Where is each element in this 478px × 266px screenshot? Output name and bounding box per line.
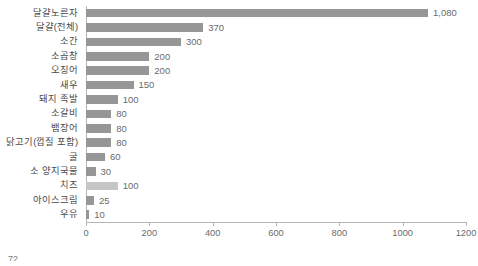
category-label: 아이스크림	[33, 194, 78, 207]
bar-10	[86, 153, 105, 162]
category-label: 굴	[69, 151, 78, 164]
bar-row: 100	[86, 180, 139, 193]
bar-13	[86, 196, 94, 205]
bar-1	[86, 23, 203, 32]
bars-layer: 1,08037030020020015010080808060301002510	[86, 6, 466, 222]
bar-value-label: 25	[99, 196, 110, 206]
x-tick	[213, 222, 214, 226]
category-label: 달걀(전체)	[36, 21, 78, 34]
bar-row: 80	[86, 136, 127, 149]
bar-row: 10	[86, 208, 105, 221]
x-tick	[339, 222, 340, 226]
bar-value-label: 60	[110, 152, 121, 162]
x-tick	[466, 222, 467, 226]
x-tick-label: 200	[142, 229, 158, 238]
bar-row: 80	[86, 108, 127, 121]
bar-row: 370	[86, 21, 224, 34]
bar-value-label: 1,080	[433, 8, 457, 18]
x-tick-label: 600	[268, 229, 284, 238]
x-tick-label: 1000	[392, 229, 413, 238]
bar-value-label: 370	[208, 23, 224, 33]
x-tick	[403, 222, 404, 226]
bar-row: 1,080	[86, 7, 457, 20]
bar-4	[86, 66, 149, 75]
bar-row: 300	[86, 36, 202, 49]
x-tick-label: 1200	[456, 229, 477, 238]
bar-value-label: 300	[186, 37, 202, 47]
bar-row: 150	[86, 79, 154, 92]
plot-area: 1,08037030020020015010080808060301002510	[86, 6, 466, 222]
category-label: 뱀장어	[51, 122, 78, 135]
bar-value-label: 200	[154, 66, 170, 76]
bar-value-label: 100	[123, 181, 139, 191]
bar-row: 200	[86, 64, 170, 77]
bar-row: 60	[86, 151, 121, 164]
category-label: 돼지 족발	[39, 93, 78, 106]
bar-value-label: 200	[154, 52, 170, 62]
bar-7	[86, 110, 111, 119]
bar-value-label: 150	[139, 80, 155, 90]
category-label: 소곱창	[51, 50, 78, 63]
bar-value-label: 30	[101, 167, 112, 177]
x-tick	[149, 222, 150, 226]
bar-row: 200	[86, 50, 170, 63]
bar-value-label: 80	[116, 124, 127, 134]
bar-row: 25	[86, 194, 109, 207]
category-label: 소갈비	[51, 108, 78, 121]
bar-5	[86, 81, 134, 90]
bar-value-label: 10	[94, 210, 105, 220]
x-tick	[86, 222, 87, 226]
bar-0	[86, 9, 428, 18]
bar-6	[86, 95, 118, 104]
bar-row: 30	[86, 165, 111, 178]
x-tick-label: 0	[83, 229, 88, 238]
category-label: 닭고기(껍질 포함)	[6, 136, 78, 149]
category-axis-labels: 달걀노른자달걀(전체)소간소곱창오징어새우돼지 족발소갈비뱀장어닭고기(껍질 포…	[0, 6, 82, 222]
bar-11	[86, 167, 96, 176]
bar-value-label: 80	[116, 109, 127, 119]
bar-row: 100	[86, 93, 139, 106]
bar-value-label: 80	[116, 138, 127, 148]
bar-row: 80	[86, 122, 127, 135]
category-label: 오징어	[51, 64, 78, 77]
bar-chart: 달걀노른자달걀(전체)소간소곱창오징어새우돼지 족발소갈비뱀장어닭고기(껍질 포…	[0, 0, 478, 266]
x-tick	[276, 222, 277, 226]
bar-8	[86, 124, 111, 133]
category-label: 소 양지국물	[30, 165, 78, 178]
bar-9	[86, 138, 111, 147]
x-tick-label: 800	[332, 229, 348, 238]
x-tick-label: 400	[205, 229, 221, 238]
bar-12	[86, 182, 118, 191]
category-label: 달걀노른자	[33, 7, 78, 20]
page-number: 72	[8, 255, 18, 261]
bar-14	[86, 210, 89, 219]
bar-2	[86, 38, 181, 47]
category-label: 우유	[60, 208, 78, 221]
category-label: 치즈	[60, 180, 78, 193]
bar-value-label: 100	[123, 95, 139, 105]
category-label: 새우	[60, 79, 78, 92]
category-label: 소간	[60, 36, 78, 49]
bar-3	[86, 52, 149, 61]
